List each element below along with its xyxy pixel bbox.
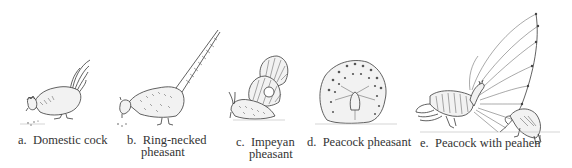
impeyan-pheasant-illustration bbox=[225, 0, 305, 130]
caption-letter: e. bbox=[420, 136, 429, 150]
caption-letter: b. bbox=[127, 133, 136, 147]
caption-label-line2: pheasant bbox=[236, 148, 295, 160]
caption-peacock-pheasant: d. Peacock pheasant bbox=[307, 136, 411, 148]
caption-domestic-cock: a. Domestic cock bbox=[18, 134, 108, 146]
caption-label: Peacock with peahen bbox=[435, 136, 541, 150]
panel-ring-necked-pheasant: b. Ring-necked pheasant bbox=[110, 0, 220, 168]
caption-peacock-with-peahen: e. Peacock with peahen bbox=[420, 137, 540, 149]
panel-domestic-cock: a. Domestic cock bbox=[0, 0, 110, 168]
peacock-with-peahen-illustration bbox=[410, 0, 572, 150]
panel-peacock-pheasant: d. Peacock pheasant bbox=[305, 0, 415, 168]
peacock-pheasant-illustration bbox=[305, 0, 415, 130]
caption-ring-necked-pheasant: b. Ring-necked pheasant bbox=[127, 134, 207, 158]
caption-label: Domestic cock bbox=[33, 133, 108, 147]
domestic-cock-illustration bbox=[0, 0, 110, 130]
ring-necked-pheasant-illustration bbox=[110, 0, 230, 130]
caption-letter: d. bbox=[307, 135, 316, 149]
caption-label: Peacock pheasant bbox=[323, 135, 412, 149]
panel-impeyan-pheasant: c. Impeyan pheasant bbox=[225, 0, 305, 168]
caption-letter: c. bbox=[236, 135, 245, 149]
caption-label-line2: pheasant bbox=[127, 146, 207, 158]
caption-letter: a. bbox=[18, 133, 27, 147]
panel-peacock-with-peahen: e. Peacock with peahen bbox=[410, 0, 572, 168]
caption-impeyan-pheasant: c. Impeyan pheasant bbox=[236, 136, 295, 160]
